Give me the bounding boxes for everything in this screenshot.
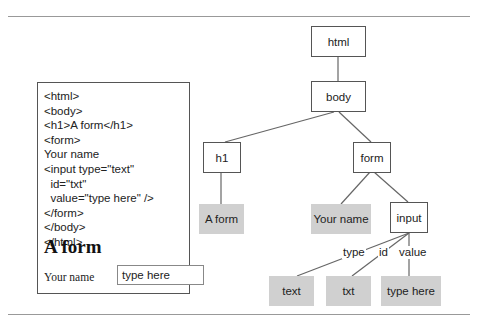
edge-form-text	[341, 172, 370, 204]
node-label: body	[326, 91, 351, 103]
node-label: text	[282, 285, 301, 297]
attr-node-text: text	[269, 276, 314, 306]
node-html: html	[311, 26, 366, 57]
node-label: type here	[387, 285, 435, 297]
edge-body-h1	[225, 112, 334, 142]
node-label: input	[397, 212, 422, 224]
text-node-your-name: Your name	[311, 204, 371, 234]
node-label: h1	[216, 152, 229, 164]
node-label: form	[361, 152, 384, 164]
node-label: A form	[205, 213, 238, 225]
node-label: Your name	[313, 213, 368, 225]
edge-label-type: type	[342, 246, 366, 259]
attr-node-txt: txt	[326, 276, 371, 306]
edge-form-input	[374, 172, 408, 202]
node-body: body	[311, 81, 366, 112]
text-node-a-form: A form	[199, 204, 244, 234]
node-form: form	[353, 142, 391, 173]
node-input: input	[390, 202, 428, 233]
node-label: txt	[342, 285, 354, 297]
node-h1: h1	[203, 142, 241, 173]
attr-node-type-here: type here	[381, 276, 441, 306]
edge-body-form	[339, 112, 371, 142]
edge-label-value: value	[398, 246, 428, 259]
edge-label-id: id	[378, 246, 389, 259]
node-label: html	[328, 36, 350, 48]
